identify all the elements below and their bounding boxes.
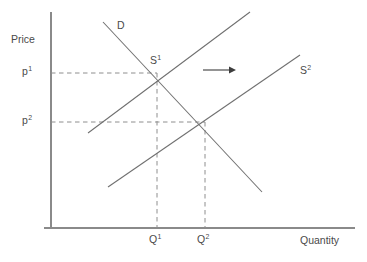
diagram-canvas [0,0,367,262]
price-tick-p1-base: p [22,65,28,77]
price-tick-p2-base: p [22,114,28,126]
shift-arrow-icon [203,67,236,74]
quantity-tick-q1-base: Q [149,233,157,245]
quantity-axis-label: Quantity [300,235,339,246]
supply-curve-2-label: S2 [300,65,311,76]
quantity-tick-q2: Q2 [197,234,209,245]
price-tick-p1-exponent: 1 [28,65,32,72]
price-tick-p2: p2 [22,115,32,126]
demand-curve-label: D [117,20,125,31]
supply-curve-1-label-base: S [150,54,157,66]
supply-curve-2 [108,55,300,187]
quantity-tick-q2-exponent: 2 [205,233,209,240]
price-tick-p2-exponent: 2 [28,114,32,121]
demand-curve [103,22,262,192]
quantity-tick-q1: Q1 [149,234,161,245]
demand-curve-label-base: D [117,19,125,31]
quantity-tick-q1-exponent: 1 [157,233,161,240]
supply-curve-1-label-exponent: 1 [157,54,161,61]
supply-curve-1-label: S1 [150,55,161,66]
supply-curve-1 [88,12,250,133]
price-tick-p1: p1 [22,66,32,77]
supply-curve-2-label-exponent: 2 [307,64,311,71]
supply-demand-diagram: Price Quantity p1 p2 Q1 Q2 D S1 S2 [0,0,367,262]
supply-curve-2-label-base: S [300,64,307,76]
price-axis-label: Price [11,34,35,45]
quantity-tick-q2-base: Q [197,233,205,245]
